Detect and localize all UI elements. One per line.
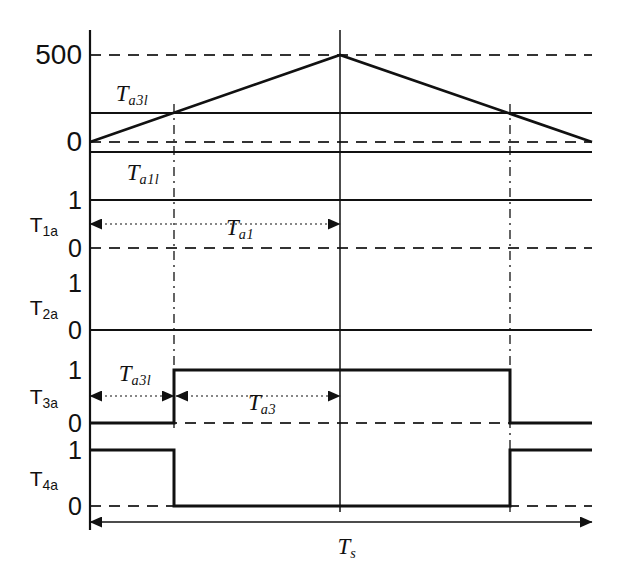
tick-high-T1a: 1 bbox=[68, 188, 82, 213]
carrier-waveform bbox=[90, 55, 592, 142]
row-label-sub-T3a: 3a bbox=[43, 394, 58, 410]
row-label-base-T1a: T bbox=[30, 213, 43, 236]
row-label-T3a: T3a bbox=[30, 386, 58, 407]
dimension-label-base-Ta1-span: T bbox=[226, 215, 239, 240]
timing-diagram-figure: 500010T1a10T2a10T3a10T4aTa3lTa1lTa1Ta3lT… bbox=[0, 0, 617, 576]
tick-high-T2a: 1 bbox=[68, 271, 82, 296]
vertical-markers-layer bbox=[174, 30, 510, 512]
dimension-label-sub-Ta3-span: a3 bbox=[261, 401, 276, 417]
row-label-T2a: T2a bbox=[30, 297, 58, 318]
dimension-label-sub-Ts-span: s bbox=[350, 545, 356, 561]
diagram-canvas bbox=[0, 0, 617, 576]
dimension-label-base-Ts-span: T bbox=[338, 534, 351, 559]
dimension-label-Ts-span: Ts bbox=[338, 535, 357, 558]
carrier-ytick-0: 0 bbox=[66, 128, 82, 156]
dimension-arrows-layer bbox=[90, 224, 592, 522]
carrier-label-sub-a1l: a1l bbox=[139, 171, 159, 187]
tick-high-T4a: 1 bbox=[68, 438, 82, 463]
carrier-label-sub-a3l: a3l bbox=[128, 92, 148, 108]
dimension-label-sub-Ta1-span: a1 bbox=[239, 226, 254, 242]
tick-low-T1a: 0 bbox=[68, 236, 82, 261]
carrier-label-base-a3l: T bbox=[116, 81, 129, 106]
dimension-label-sub-Ta3l-span: a3l bbox=[131, 372, 151, 388]
row-label-base-T3a: T bbox=[30, 385, 43, 408]
row-label-T4a: T4a bbox=[30, 468, 58, 489]
row-label-sub-T1a: 1a bbox=[43, 222, 58, 238]
reference-levels-layer bbox=[90, 113, 592, 330]
waveform-T4a bbox=[90, 450, 592, 506]
row-label-base-T2a: T bbox=[30, 296, 43, 319]
carrier-label-a3l: Ta3l bbox=[116, 82, 149, 105]
tick-low-T2a: 0 bbox=[68, 318, 82, 343]
dimension-label-Ta3l-span: Ta3l bbox=[119, 362, 152, 385]
dashed-gridlines-layer bbox=[90, 55, 592, 506]
dimension-label-Ta3-span: Ta3 bbox=[248, 391, 276, 414]
dimension-label-Ta1-span: Ta1 bbox=[226, 216, 254, 239]
signal-waveforms-layer bbox=[90, 370, 592, 506]
tick-high-T3a: 1 bbox=[68, 358, 82, 383]
dimension-label-base-Ta3l-span: T bbox=[119, 361, 132, 386]
carrier-waveform-layer bbox=[90, 55, 592, 142]
dimension-label-base-Ta3-span: T bbox=[248, 390, 261, 415]
tick-low-T3a: 0 bbox=[68, 411, 82, 436]
row-label-base-T4a: T bbox=[30, 467, 43, 490]
carrier-label-base-a1l: T bbox=[127, 160, 140, 185]
row-label-sub-T4a: 4a bbox=[43, 476, 58, 492]
row-label-sub-T2a: 2a bbox=[43, 305, 58, 321]
carrier-label-a1l: Ta1l bbox=[127, 161, 160, 184]
carrier-ytick-500: 500 bbox=[35, 41, 82, 69]
row-label-T1a: T1a bbox=[30, 214, 58, 235]
tick-low-T4a: 0 bbox=[68, 494, 82, 519]
